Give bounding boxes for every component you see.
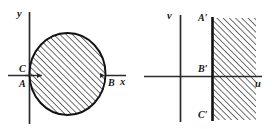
v-axis-label: v <box>167 11 172 22</box>
point-label-c: C <box>19 64 26 74</box>
coordinate-mapping-figure: y x C A B v u <box>0 0 272 129</box>
panel-xy-plane: y x C A B <box>0 0 136 129</box>
point-label-b: B <box>108 78 115 88</box>
point-label-a: A <box>19 79 26 89</box>
half-plane-region-fill <box>213 18 256 120</box>
point-label-a-prime: A′ <box>198 13 207 23</box>
u-axis-label: u <box>255 79 261 90</box>
x-axis-label: x <box>120 77 125 88</box>
panel-uv-plane: v u A′ B′ C′ <box>136 0 272 129</box>
point-label-b-prime: B′ <box>198 64 207 74</box>
point-label-c-prime: C′ <box>198 110 207 120</box>
y-axis-label: y <box>17 9 22 20</box>
